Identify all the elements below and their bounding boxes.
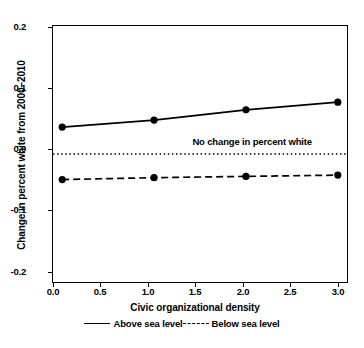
- legend-entry-below-sea-level: Below sea level: [183, 318, 280, 329]
- y-tick-label-0: 0.2: [0, 22, 26, 32]
- x-tick-label-2: 1.0: [133, 287, 163, 297]
- zero-line-annotation: No change in percent white: [192, 136, 312, 147]
- legend-entry-above-sea-level: Above sea level: [84, 318, 182, 329]
- y-tick-label-4: -0.2: [0, 267, 26, 277]
- y-tick-label-2: 0.0: [0, 144, 26, 154]
- x-tick-label-1: 0.5: [85, 287, 115, 297]
- y-tick-label-3: -0.1: [0, 205, 26, 215]
- x-tick-label-4: 2.0: [228, 287, 258, 297]
- chart-legend: Above sea level Below sea level: [0, 318, 364, 329]
- y-tick-label-1: 0.1: [0, 83, 26, 93]
- legend-label-below-sea-level: Below sea level: [212, 318, 280, 329]
- x-tick-label-6: 3.0: [323, 287, 353, 297]
- y-axis-label: Change in percent white from 2000–2010: [14, 10, 30, 300]
- x-tick-label-0: 0.0: [38, 287, 68, 297]
- data-point: [334, 99, 341, 106]
- data-point: [59, 124, 66, 131]
- series-line-above-sea-level: [62, 102, 338, 127]
- data-point: [242, 106, 249, 113]
- chart-figure: Change in percent white from 2000–2010 0…: [0, 0, 364, 348]
- plot-canvas: [53, 26, 347, 282]
- data-point: [150, 174, 157, 181]
- data-point: [59, 176, 66, 183]
- legend-dashed-line-icon: [183, 320, 209, 328]
- plot-area: [52, 25, 348, 283]
- x-tick-label-5: 2.5: [275, 287, 305, 297]
- series-line-below-sea-level: [62, 175, 338, 179]
- x-tick-label-3: 1.5: [180, 287, 210, 297]
- legend-label-above-sea-level: Above sea level: [113, 318, 182, 329]
- data-point: [242, 173, 249, 180]
- legend-solid-line-icon: [84, 320, 110, 328]
- data-point: [150, 116, 157, 123]
- x-axis-label: Civic organizational density: [40, 302, 350, 313]
- data-point: [334, 172, 341, 179]
